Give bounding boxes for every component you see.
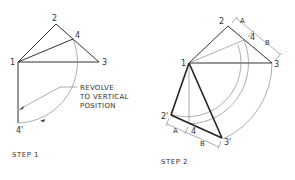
line-1-4 (18, 39, 73, 62)
arc-arrow-icon (40, 119, 45, 122)
revolve-note-line3: POSITION (80, 102, 116, 110)
step2-label-2: 2 (219, 17, 224, 26)
revolve-arc (18, 39, 78, 123)
step2-caption: STEP 2 (161, 158, 188, 166)
revolve-note-line2: TO VERTICAL (79, 93, 129, 101)
step1-label-3: 3 (102, 58, 107, 67)
step1-label-4prime: 4' (16, 126, 23, 135)
step1-caption: STEP 1 (12, 151, 39, 159)
revolve-note-line1: REVOLVE (80, 84, 114, 92)
top-dim-b: B (265, 39, 270, 47)
edge-1-2 (189, 26, 228, 63)
edge-2prime-3prime (171, 115, 222, 138)
step2-figure (166, 17, 282, 149)
ext-line (218, 141, 221, 149)
ext-line (275, 53, 282, 60)
bottom-dim-b: B (200, 140, 205, 148)
step2-label-1: 1 (181, 59, 186, 68)
step2-label-3prime: 3' (224, 138, 231, 147)
step1-label-1: 1 (10, 58, 15, 67)
top-dim-a: A (240, 17, 245, 25)
leader-line (20, 87, 77, 109)
edge-1-2 (18, 24, 56, 62)
leader-arrow-icon (19, 106, 24, 110)
arc-2 (170, 45, 241, 117)
line-1-4 (189, 40, 244, 63)
bottom-dim-a: A (173, 127, 178, 135)
revolution-diagram: 2 4 1 3 4' REVOLVE TO VERTICAL POSITION … (0, 0, 295, 180)
step1-label-4: 4 (75, 31, 80, 40)
step2-label-3: 3 (274, 60, 279, 69)
edge-1-2prime (171, 63, 189, 115)
step2-label-2prime: 2' (161, 112, 168, 121)
step2-label-4: 4 (250, 33, 255, 42)
step1-label-2: 2 (52, 14, 57, 23)
step2-label-4-lower: 4 (191, 127, 196, 136)
